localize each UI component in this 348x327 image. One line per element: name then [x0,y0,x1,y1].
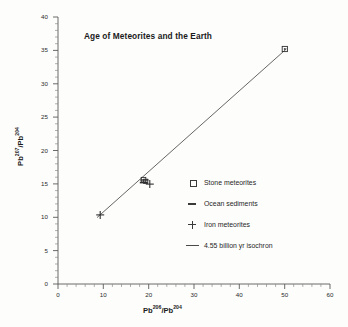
y-tick-label-15: 15 [28,180,48,187]
legend-label-stone-meteorites: Stone meteorites [204,179,256,186]
x-tick-label-60: 60 [320,291,340,298]
y-tick-label-10: 10 [28,213,48,220]
line-marker-icon [186,240,204,252]
legend-label-iron-meteorites: Iron meteorites [204,221,250,228]
y-axis-label: Pb207/Pb204 [16,115,25,179]
legend-item-ocean-sediments[interactable]: Ocean sediments [186,193,326,214]
x-axis-label-base: Pb [143,306,153,315]
y-tick-label-40: 40 [28,13,48,20]
x-tick-label-40: 40 [229,291,249,298]
data-point-cluster [140,177,154,188]
x-axis-label-sup2: 204 [173,304,182,310]
x-tick-label-30: 30 [184,291,204,298]
x-tick-label-20: 20 [139,291,159,298]
plus-marker-icon [186,219,204,231]
y-tick-label-35: 35 [28,46,48,53]
plot-area [0,0,348,327]
legend-item-iron-meteorites[interactable]: Iron meteorites [186,214,326,235]
x-tick-label-50: 50 [275,291,295,298]
chart-page: Age of Meteorites and the Earth Pb206/Pb… [0,0,348,327]
y-tick-label-30: 30 [28,80,48,87]
legend-label-isochron: 4.55 billion yr isochron [204,242,273,249]
y-tick-label-25: 25 [28,113,48,120]
y-axis-label-sup2: 204 [14,127,20,136]
y-tick-label-0: 0 [28,280,48,287]
chart-legend: Stone meteorites Ocean sediments Iron me… [186,172,326,256]
legend-label-ocean-sediments: Ocean sediments [204,200,258,207]
x-tick-label-0: 0 [48,291,68,298]
y-tick-label-5: 5 [28,247,48,254]
open-square-marker-icon [186,177,204,189]
x-major-ticks [58,284,330,289]
legend-item-isochron[interactable]: 4.55 billion yr isochron [186,235,326,256]
y-axis-label-base: Pb [16,156,25,166]
x-tick-label-10: 10 [93,291,113,298]
y-axis-label-mid: /Pb [16,136,25,148]
x-axis-label: Pb206/Pb204 [143,306,182,315]
x-axis-label-mid: /Pb [161,306,173,315]
dash-marker-icon [186,198,204,210]
legend-item-stone-meteorites[interactable]: Stone meteorites [186,172,326,193]
chart-title: Age of Meteorites and the Earth [58,31,238,41]
y-tick-label-20: 20 [28,147,48,154]
y-axis-label-sup1: 207 [14,148,20,157]
